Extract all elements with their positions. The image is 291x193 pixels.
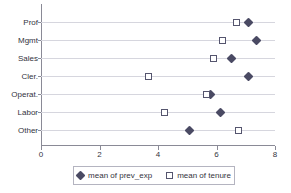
data-point-marker xyxy=(203,91,210,98)
x-axis-tick-label: 8 xyxy=(273,150,277,159)
plot-area xyxy=(41,4,275,145)
y-axis-tick xyxy=(38,40,41,41)
y-axis-tick xyxy=(38,130,41,131)
dot-chart: ProfMgmtSalesCler.Operat.LaborOther 0246… xyxy=(0,0,291,193)
gridline xyxy=(41,76,275,77)
data-point-marker xyxy=(244,17,254,27)
gridline xyxy=(41,112,275,113)
gridline xyxy=(41,58,275,59)
y-axis-tick xyxy=(38,76,41,77)
data-point-marker xyxy=(210,55,217,62)
legend-entry: mean of tenure xyxy=(166,171,231,180)
square-marker-icon xyxy=(166,172,173,179)
data-point-marker xyxy=(161,109,168,116)
data-point-marker xyxy=(185,125,195,135)
data-point-marker xyxy=(215,107,225,117)
y-axis-tick-label: Mgmt xyxy=(18,36,38,45)
x-axis-tick-label: 4 xyxy=(156,150,160,159)
data-point-marker xyxy=(233,19,240,26)
y-axis-tick-label: Other xyxy=(18,126,38,135)
y-axis-tick-label: Cler. xyxy=(22,72,38,81)
y-axis-tick xyxy=(38,112,41,113)
x-axis-tick-label: 2 xyxy=(97,150,101,159)
y-axis-tick xyxy=(38,58,41,59)
y-axis-tick-label: Labor xyxy=(18,108,38,117)
gridline xyxy=(41,40,275,41)
legend-label: mean of tenure xyxy=(177,171,231,180)
y-axis-tick xyxy=(38,22,41,23)
y-axis-tick-label: Prof xyxy=(23,18,38,27)
y-axis-tick xyxy=(38,94,41,95)
gridline xyxy=(41,94,275,95)
y-axis-tick-label: Operat. xyxy=(11,90,38,99)
gridline xyxy=(41,22,275,23)
legend-label: mean of prev_exp xyxy=(88,171,152,180)
x-axis-tick-label: 6 xyxy=(214,150,218,159)
data-point-marker xyxy=(226,53,236,63)
y-axis-tick-label: Sales xyxy=(18,54,38,63)
data-point-marker xyxy=(243,71,253,81)
chart-legend: mean of prev_expmean of tenure xyxy=(73,166,235,185)
data-point-marker xyxy=(252,35,262,45)
data-point-marker xyxy=(145,73,152,80)
data-point-marker xyxy=(235,127,242,134)
legend-entry: mean of prev_exp xyxy=(77,171,152,180)
diamond-marker-icon xyxy=(76,171,86,181)
data-point-marker xyxy=(219,37,226,44)
x-axis-tick-label: 0 xyxy=(39,150,43,159)
